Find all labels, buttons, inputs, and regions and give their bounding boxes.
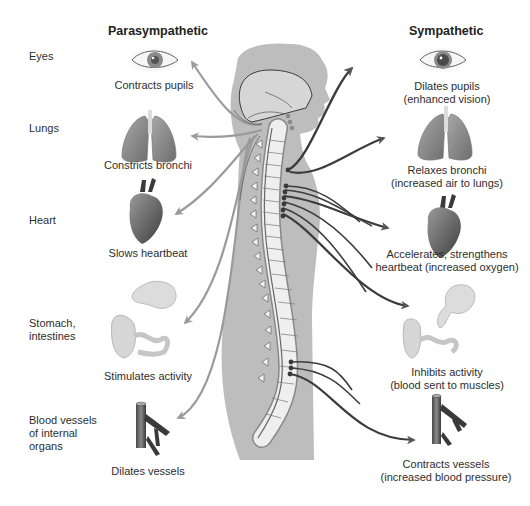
sympathetic-header: Sympathetic bbox=[409, 24, 483, 38]
organ-label-blood-vessels: Blood vessels of internal organs bbox=[29, 414, 97, 453]
para-caption-heart: Slows heartbeat bbox=[98, 247, 198, 260]
eye-icon-left bbox=[122, 44, 186, 76]
para-caption-blood-vessels: Dilates vessels bbox=[98, 465, 198, 478]
lungs-icon-right bbox=[418, 106, 472, 160]
parasympathetic-header: Parasympathetic bbox=[108, 24, 208, 38]
eye-icon-right bbox=[410, 44, 474, 76]
stomach-intestines-icon-right bbox=[403, 285, 475, 358]
blood-vessel-icon-right bbox=[432, 394, 467, 446]
symp-caption-blood-vessels: Contracts vessels (increased blood press… bbox=[376, 458, 516, 484]
stomach-intestines-icon-left bbox=[112, 281, 177, 358]
para-caption-lungs: Constricts bronchi bbox=[98, 159, 198, 172]
symp-caption-stomach-intestines: Inhibits activity (blood sent to muscles… bbox=[382, 366, 512, 392]
organ-label-eyes: Eyes bbox=[29, 50, 53, 63]
lungs-icon-left bbox=[122, 110, 176, 162]
symp-caption-heart: Accelerates, strengthens heartbeat (incr… bbox=[372, 248, 522, 274]
symp-caption-eyes: Dilates pupils (enhanced vision) bbox=[392, 80, 502, 106]
organ-label-lungs: Lungs bbox=[29, 122, 59, 135]
para-caption-eyes: Contracts pupils bbox=[104, 79, 204, 92]
blood-vessel-icon-left bbox=[136, 402, 170, 456]
symp-caption-lungs: Relaxes bronchi (increased air to lungs) bbox=[382, 164, 512, 190]
organ-label-stomach-intestines: Stomach, intestines bbox=[29, 317, 75, 343]
organ-label-heart: Heart bbox=[29, 214, 56, 227]
para-caption-stomach-intestines: Stimulates activity bbox=[98, 370, 198, 383]
heart-icon-left bbox=[130, 178, 163, 244]
